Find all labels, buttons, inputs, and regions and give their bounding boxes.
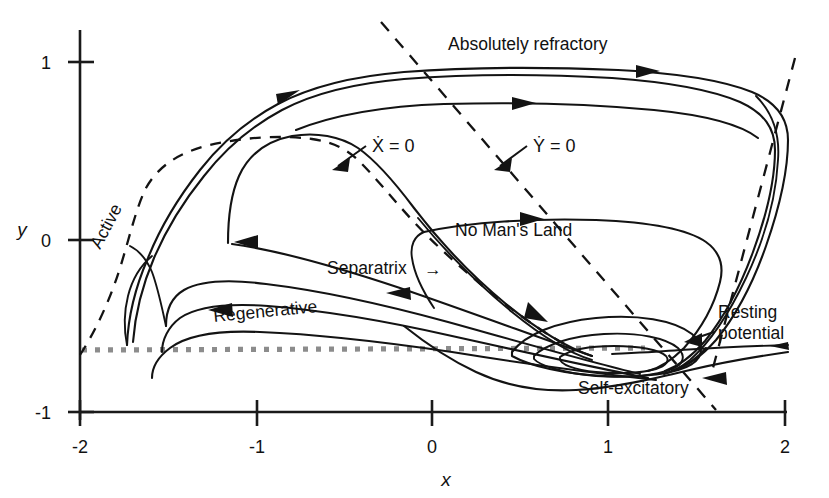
y-tick-label-neg1: -1 bbox=[35, 403, 51, 423]
y-axis-label: y bbox=[15, 219, 28, 240]
label-active: Active bbox=[86, 200, 126, 251]
y-tick-label-0: 0 bbox=[41, 231, 51, 251]
phase-plane-figure: 1 0 -1 -2 -1 0 1 2 x y bbox=[0, 0, 829, 498]
pointer-ydot bbox=[500, 146, 527, 166]
arrow-regenerative-1 bbox=[386, 287, 411, 300]
label-no-mans-land: No Man's Land bbox=[455, 220, 572, 240]
label-xdot-zero: Ẋ = 0 bbox=[372, 136, 415, 156]
arrow-refractory-inner bbox=[512, 97, 536, 110]
arrow-separatrix-inflow bbox=[524, 302, 548, 322]
label-resting-potential-line1: Resting bbox=[718, 302, 777, 322]
label-ydot-zero-group: Ẏ = 0 bbox=[494, 136, 576, 172]
arrow-absolutely-refractory bbox=[636, 65, 660, 78]
x-tick-label-neg1: -1 bbox=[249, 437, 265, 457]
trajectory-inner-active bbox=[228, 135, 592, 357]
trajectory-refractory-inner-band bbox=[296, 103, 758, 138]
y-tick-label-1: 1 bbox=[41, 53, 51, 73]
label-resting-potential-line2: potential bbox=[718, 323, 784, 343]
label-regenerative: Regenerative bbox=[212, 296, 318, 326]
label-self-excitatory: Self-excitatory bbox=[578, 378, 689, 398]
arrow-self-excitatory bbox=[702, 372, 727, 385]
phase-plane-svg: 1 0 -1 -2 -1 0 1 2 x y bbox=[0, 0, 829, 498]
x-tick-label-0: 0 bbox=[427, 437, 437, 457]
label-ydot-zero: Ẏ = 0 bbox=[533, 136, 576, 156]
label-separatrix: Separatrix bbox=[327, 258, 407, 278]
x-axis-label: x bbox=[440, 469, 452, 490]
x-tick-label-2: 2 bbox=[780, 437, 790, 457]
pointer-arrow-ydot bbox=[494, 158, 512, 172]
label-absolutely-refractory: Absolutely refractory bbox=[448, 34, 608, 54]
label-separatrix-arrow-icon: → bbox=[424, 259, 442, 279]
arrow-lower-right bbox=[770, 342, 789, 350]
x-tick-label-1: 1 bbox=[603, 437, 613, 457]
pointer-xdot bbox=[338, 146, 366, 166]
x-tick-label-neg2: -2 bbox=[72, 437, 88, 457]
label-resting-potential-group: Resting potential bbox=[684, 302, 784, 347]
label-separatrix-group: Separatrix → bbox=[327, 258, 442, 279]
pointer-arrow-xdot bbox=[332, 158, 350, 172]
